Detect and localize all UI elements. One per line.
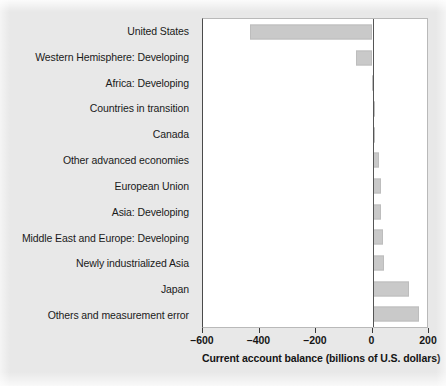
bar: [373, 255, 385, 270]
bar: [250, 24, 373, 39]
x-axis-tick: [372, 328, 373, 333]
bar: [373, 178, 382, 193]
category-label: Western Hemisphere: Developing: [0, 44, 196, 70]
bar: [356, 50, 372, 65]
category-axis-labels: United States Western Hemisphere: Develo…: [0, 18, 196, 328]
category-label: Middle East and Europe: Developing: [0, 225, 196, 251]
category-label: European Union: [0, 173, 196, 199]
x-axis-tick-label: –200: [303, 334, 326, 346]
x-axis-tick: [315, 328, 316, 333]
bar-row: [203, 250, 427, 276]
category-label: Japan: [0, 276, 196, 302]
category-label: Others and measurement error: [0, 302, 196, 328]
category-label: United States: [0, 18, 196, 44]
bar-row: [203, 173, 427, 199]
bar: [373, 153, 380, 168]
category-label: Asia: Developing: [0, 199, 196, 225]
x-axis-tick-label: –600: [190, 334, 213, 346]
x-axis-tick: [259, 328, 260, 333]
x-axis-tick-label: –400: [247, 334, 270, 346]
bar-series: [203, 19, 427, 327]
category-label: Countries in transition: [0, 95, 196, 121]
bar-row: [203, 224, 427, 250]
x-axis-tick: [202, 328, 203, 333]
bar: [373, 281, 410, 296]
bar-row: [203, 301, 427, 327]
bar-row: [203, 19, 427, 45]
bar-row: [203, 45, 427, 71]
plot-area: [202, 18, 428, 328]
x-axis-tick: [428, 328, 429, 333]
bar: [373, 204, 382, 219]
bar-row: [203, 122, 427, 148]
bar-row: [203, 147, 427, 173]
bar: [373, 307, 420, 322]
chart-figure: United States Western Hemisphere: Develo…: [0, 0, 446, 386]
x-axis-tick-label: 200: [419, 334, 437, 346]
category-label: Africa: Developing: [0, 70, 196, 96]
bar-row: [203, 70, 427, 96]
bar-row: [203, 276, 427, 302]
x-axis-title: Current account balance (billions of U.S…: [202, 352, 434, 364]
x-axis-tick-label: 0: [369, 334, 375, 346]
category-label: Other advanced economies: [0, 147, 196, 173]
zero-reference-line: [373, 19, 374, 327]
bar-row: [203, 199, 427, 225]
bar: [373, 230, 383, 245]
bar-row: [203, 96, 427, 122]
category-label: Newly industrialized Asia: [0, 250, 196, 276]
category-label: Canada: [0, 121, 196, 147]
